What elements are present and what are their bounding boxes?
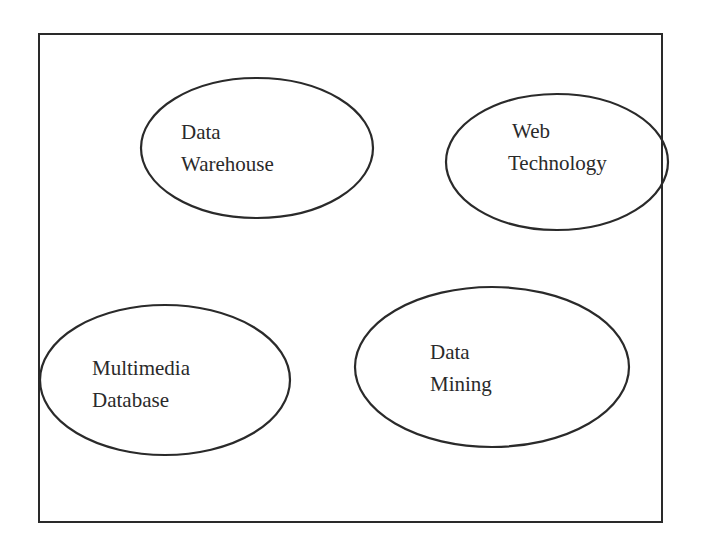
label-line: Technology xyxy=(508,147,607,179)
label-line: Web xyxy=(508,115,607,147)
label-line: Multimedia xyxy=(92,352,190,384)
label-line: Database xyxy=(92,384,190,416)
label-multimedia-database: Multimedia Database xyxy=(92,352,190,416)
label-line: Warehouse xyxy=(181,148,274,180)
ellipses-layer xyxy=(0,0,710,560)
label-data-warehouse: Data Warehouse xyxy=(181,116,274,180)
label-line: Data xyxy=(430,336,492,368)
label-line: Mining xyxy=(430,368,492,400)
ellipse-data-mining xyxy=(355,287,629,447)
label-web-technology: Web Technology xyxy=(508,115,607,179)
label-data-mining: Data Mining xyxy=(430,336,492,400)
label-line: Data xyxy=(181,116,274,148)
